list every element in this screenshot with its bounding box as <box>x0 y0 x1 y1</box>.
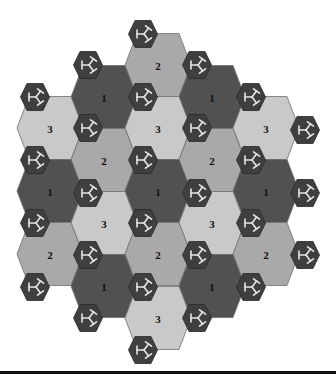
node-hex <box>237 274 266 301</box>
tile-layer: 2113332211133222113 <box>17 34 299 350</box>
hex-tile-label: 2 <box>155 249 161 261</box>
node-hex <box>74 115 103 142</box>
node-hex <box>237 147 266 174</box>
hex-tile-label: 1 <box>101 92 107 104</box>
node-hex <box>291 242 320 269</box>
hex-tile-label: 1 <box>209 281 215 293</box>
hex-tile-label: 2 <box>209 155 215 167</box>
hex-tile-label: 1 <box>155 186 161 198</box>
hex-tile-label: 1 <box>47 186 53 198</box>
hex-tile-label: 3 <box>155 313 161 325</box>
node-hex <box>291 117 320 144</box>
node-hex <box>291 180 320 207</box>
node-hex <box>183 115 212 142</box>
node-hex <box>237 84 266 111</box>
node-hex <box>21 210 50 237</box>
hex-tile-label: 3 <box>209 218 215 230</box>
hex-tile-label: 1 <box>263 186 269 198</box>
node-hex <box>21 274 50 301</box>
hex-tile-label: 3 <box>47 123 53 135</box>
node-hex <box>183 180 212 207</box>
node-hex <box>74 52 103 79</box>
node-hex <box>129 274 158 301</box>
node-hex <box>183 52 212 79</box>
hex-tile-label: 2 <box>155 60 161 72</box>
node-hex <box>183 242 212 269</box>
node-hex <box>183 305 212 332</box>
hex-tile-label: 3 <box>263 123 269 135</box>
node-hex <box>21 147 50 174</box>
node-hex <box>129 84 158 111</box>
hex-tile-label: 3 <box>155 123 161 135</box>
hex-tiling-diagram: 2113332211133222113 <box>0 0 336 382</box>
node-hex <box>74 180 103 207</box>
hex-tile-label: 2 <box>101 155 107 167</box>
node-hex <box>237 210 266 237</box>
hex-tile-label: 2 <box>47 249 53 261</box>
node-hex <box>74 242 103 269</box>
node-hex <box>129 147 158 174</box>
hex-tile-label: 1 <box>209 92 215 104</box>
hex-tile-label: 2 <box>263 249 269 261</box>
node-hex <box>129 21 158 48</box>
node-hex <box>21 84 50 111</box>
hex-tile-label: 3 <box>101 218 107 230</box>
bottom-rule-divider <box>0 371 336 374</box>
node-hex <box>74 305 103 332</box>
node-hex <box>129 210 158 237</box>
hex-tile-label: 1 <box>101 281 107 293</box>
node-hex <box>129 337 158 364</box>
